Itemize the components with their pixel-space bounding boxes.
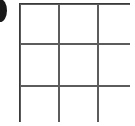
grid-cell[interactable] [60,45,97,85]
grid-cell[interactable] [21,45,58,85]
grid-cell[interactable] [21,87,58,126]
bullet-marker-icon [0,0,7,22]
grid-cell[interactable] [99,45,135,85]
figure-canvas [0,0,135,126]
grid-cell[interactable] [21,5,58,43]
grid-cell[interactable] [60,87,97,126]
grid-cell[interactable] [60,5,97,43]
grid-3x3 [19,3,130,122]
grid-cell[interactable] [99,87,135,126]
grid-cell[interactable] [99,5,135,43]
